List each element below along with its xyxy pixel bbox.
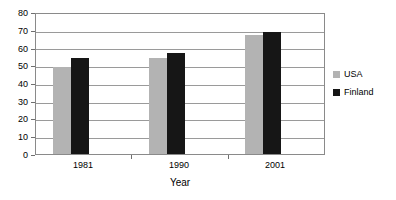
x-tick-label-1990: 1990 <box>148 160 210 170</box>
legend-label-usa: USA <box>344 70 363 79</box>
bar-finland-2001 <box>263 32 281 154</box>
bar-finland-1990 <box>167 53 185 154</box>
x-axis-title: Year <box>35 177 325 188</box>
x-axis: 1981 1990 2001 <box>35 160 325 174</box>
y-tick-label-20: 20 <box>18 115 28 124</box>
y-tick-label-50: 50 <box>18 62 28 71</box>
bar-chart: 80 70 60 50 40 30 20 10 0 <box>0 0 396 200</box>
y-tick-label-0: 0 <box>23 151 28 160</box>
x-tick-label-1981: 1981 <box>52 160 114 170</box>
y-tick-label-80: 80 <box>18 9 28 18</box>
legend-label-finland: Finland <box>344 88 374 97</box>
y-tick-label-10: 10 <box>18 133 28 142</box>
plot-area <box>35 13 325 155</box>
bar-finland-1981 <box>71 58 89 154</box>
legend: USA Finland <box>333 70 393 106</box>
y-tick-mark-0 <box>31 155 35 156</box>
bar-usa-2001 <box>245 35 263 154</box>
x-tick-mark-1 <box>131 155 132 159</box>
y-axis: 80 70 60 50 40 30 20 10 0 <box>0 0 33 200</box>
legend-item-usa: USA <box>333 70 393 79</box>
bars-layer <box>36 14 324 154</box>
bar-usa-1981 <box>53 67 71 154</box>
y-tick-label-60: 60 <box>18 45 28 54</box>
x-tick-label-2001: 2001 <box>244 160 306 170</box>
bar-usa-1990 <box>149 58 167 154</box>
x-tick-mark-2 <box>228 155 229 159</box>
y-tick-label-30: 30 <box>18 98 28 107</box>
y-tick-label-70: 70 <box>18 27 28 36</box>
y-tick-label-40: 40 <box>18 80 28 89</box>
usa-swatch-icon <box>333 71 340 78</box>
legend-item-finland: Finland <box>333 88 393 97</box>
finland-swatch-icon <box>333 89 340 96</box>
